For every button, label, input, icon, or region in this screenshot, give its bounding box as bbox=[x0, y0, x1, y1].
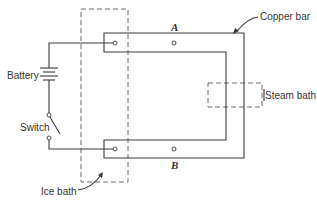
terminal-bottom bbox=[113, 147, 117, 151]
steam-bath-box bbox=[208, 83, 262, 107]
point-a-label: A bbox=[170, 21, 178, 33]
terminal-top bbox=[113, 41, 117, 45]
point-b-label: B bbox=[170, 159, 178, 171]
steam-bath-label: Steam bath bbox=[265, 90, 316, 101]
point-a-marker bbox=[172, 41, 176, 45]
ice-bath-label: Ice bath bbox=[41, 186, 77, 197]
battery-label: Battery bbox=[7, 70, 39, 81]
switch-label: Switch bbox=[20, 122, 49, 133]
copper-bar-label: Copper bar bbox=[260, 11, 311, 22]
circuit-diagram: Battery Switch Ice bath Steam bath Coppe… bbox=[0, 0, 317, 201]
ice-bath-arrowhead-icon bbox=[98, 172, 103, 178]
top-wire bbox=[49, 43, 115, 68]
point-b-marker bbox=[172, 147, 176, 151]
battery-icon bbox=[40, 68, 58, 80]
copper-bar-arrow-icon bbox=[236, 17, 258, 32]
copper-bar bbox=[104, 33, 244, 158]
